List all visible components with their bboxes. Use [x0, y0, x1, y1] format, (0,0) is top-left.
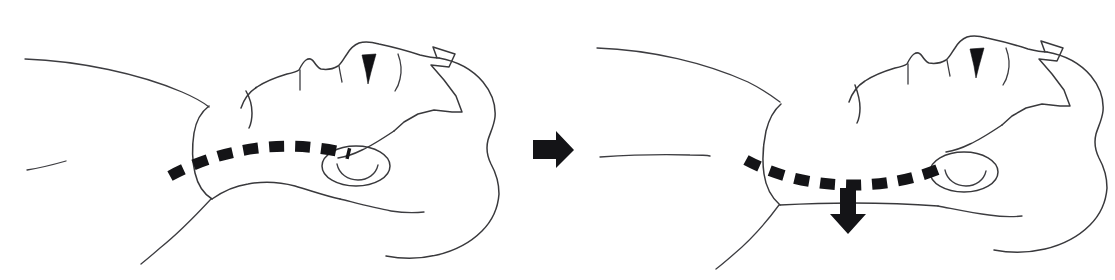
- panel-before: [25, 42, 499, 264]
- mandible-angle-line: [340, 199, 424, 213]
- nose-tick-line: [339, 66, 342, 82]
- back-of-head-outline: [386, 58, 499, 258]
- shoulder-top-line: [25, 59, 209, 107]
- cheek-jaw-line: [338, 131, 394, 158]
- chest-line: [600, 155, 710, 157]
- chin-line: [855, 85, 860, 123]
- neck-front-line: [763, 104, 781, 205]
- lower-body-line: [716, 205, 779, 269]
- figure-canvas: [0, 0, 1115, 280]
- brow-line: [395, 54, 401, 91]
- lower-body-line: [141, 199, 211, 264]
- shoulder-top-line: [597, 48, 780, 102]
- closed-eye: [362, 54, 376, 84]
- airway-dashed-line: [746, 160, 944, 185]
- ear-inner-curve: [337, 164, 378, 180]
- jaw-underside-line: [212, 182, 340, 199]
- zigzag-hairline: [394, 47, 462, 131]
- airway-maneuver-figure: [0, 0, 1115, 280]
- downward-displacement-arrow: [830, 188, 866, 234]
- chest-line: [27, 161, 66, 170]
- arrow-right-glyph: [533, 131, 574, 168]
- zigzag-hairline: [1002, 41, 1070, 125]
- closed-eye: [970, 48, 984, 78]
- back-of-head-outline: [994, 52, 1107, 252]
- mandible-angle-line: [938, 206, 1022, 217]
- ear-inner-curve: [945, 170, 986, 186]
- jaw-underside-line: [780, 203, 938, 206]
- panel-after: [597, 36, 1107, 269]
- nose-tick-line: [947, 60, 950, 76]
- arrow-down-glyph: [830, 188, 866, 234]
- brow-line: [1003, 48, 1009, 85]
- neck-front-line: [193, 106, 212, 199]
- cheek-jaw-line: [946, 125, 1002, 152]
- rightward-transition-arrow: [533, 131, 574, 168]
